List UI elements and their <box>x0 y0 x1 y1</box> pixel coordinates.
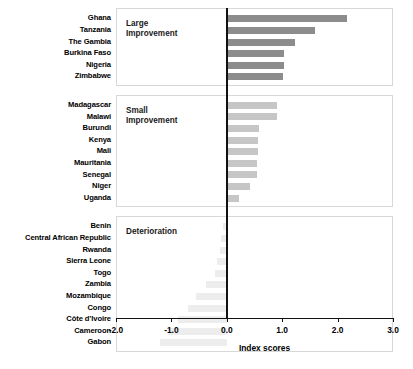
bar-ghana <box>227 15 347 22</box>
category-label: Niger <box>92 181 111 190</box>
category-label: Côte d’Ivoire <box>66 314 111 323</box>
category-label: Central African Republic <box>25 233 111 242</box>
x-axis-title: Index scores <box>0 343 413 353</box>
plot-panels: Large ImprovementSmall ImprovementDeteri… <box>116 8 393 318</box>
category-label: Burkina Faso <box>64 48 111 57</box>
x-tick <box>338 318 339 322</box>
category-label: Zimbabwe <box>75 71 111 80</box>
bar-the-gambia <box>227 39 295 46</box>
bar-kenya <box>227 137 259 144</box>
x-tick <box>227 318 228 322</box>
bar-mauritania <box>227 160 257 167</box>
panel-title-small-improvement: Small Improvement <box>126 106 177 126</box>
category-label: Mozambique <box>66 291 111 300</box>
bar-burundi <box>227 125 259 132</box>
bar-zambia <box>206 281 227 288</box>
panel-title-large-improvement: Large Improvement <box>126 19 177 39</box>
panel-border-left <box>116 9 117 85</box>
bar-nigeria <box>227 62 284 69</box>
x-tick-label: -2.0 <box>109 325 123 335</box>
category-label: Mauritania <box>74 158 111 167</box>
bar-madagascar <box>227 102 277 109</box>
panel-large-improvement: Large Improvement <box>116 8 393 86</box>
category-label: Nigeria <box>86 60 111 69</box>
bar-mozambique <box>196 293 226 300</box>
bar-tanzania <box>227 27 315 34</box>
x-tick <box>171 318 172 322</box>
bar-senegal <box>227 171 257 178</box>
category-label: Uganda <box>84 193 111 202</box>
bar-uganda <box>227 195 239 202</box>
x-axis-title-label: Index scores <box>239 343 290 353</box>
category-label: Burundi <box>83 123 111 132</box>
category-label: Togo <box>93 268 111 277</box>
x-tick-label: 0.0 <box>221 325 233 335</box>
category-label: Sierra Leone <box>66 256 111 265</box>
x-tick-label: 3.0 <box>387 325 399 335</box>
x-tick <box>393 318 394 322</box>
bar-zimbabwe <box>227 73 284 80</box>
category-label: Madagascar <box>68 100 111 109</box>
x-axis-line <box>116 318 393 319</box>
panel-border-left <box>116 96 117 206</box>
x-tick-label: 2.0 <box>332 325 344 335</box>
x-tick <box>282 318 283 322</box>
category-label: Benin <box>90 221 111 230</box>
zero-reference-line <box>226 8 228 318</box>
bar-mali <box>227 148 258 155</box>
x-tick-label: 1.0 <box>276 325 288 335</box>
panel-deterioration: Deterioration <box>116 216 393 352</box>
bar-burkina-faso <box>227 50 284 57</box>
panel-title-deterioration: Deterioration <box>126 227 177 237</box>
bar-niger <box>227 183 250 190</box>
category-label: Congo <box>87 303 111 312</box>
category-label: Ghana <box>88 13 111 22</box>
category-label: Rwanda <box>82 245 111 254</box>
panel-border-right <box>392 9 393 85</box>
panel-small-improvement: Small Improvement <box>116 95 393 207</box>
category-label: Senegal <box>83 170 111 179</box>
category-label: Tanzania <box>80 25 111 34</box>
category-label: Zambia <box>85 279 111 288</box>
category-label-column: GhanaTanzaniaThe GambiaBurkina FasoNiger… <box>0 0 113 318</box>
bar-congo <box>188 305 227 312</box>
category-label: Cameroon <box>74 326 111 335</box>
x-tick-label: -1.0 <box>164 325 178 335</box>
index-scores-bar-chart: GhanaTanzaniaThe GambiaBurkina FasoNiger… <box>0 0 413 369</box>
category-label: The Gambia <box>69 37 111 46</box>
category-label: Mali <box>97 146 111 155</box>
panel-border-right <box>392 96 393 206</box>
bar-malawi <box>227 113 277 120</box>
x-tick <box>116 318 117 322</box>
category-label: Kenya <box>89 135 111 144</box>
category-label: Malawi <box>87 112 111 121</box>
